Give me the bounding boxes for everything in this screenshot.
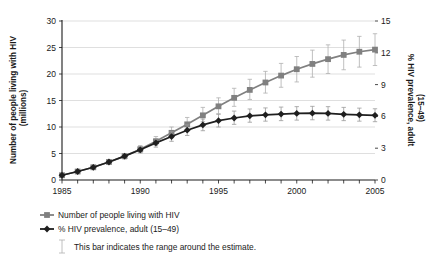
chart-series — [59, 34, 379, 179]
y-tick-label-right: 12 — [381, 48, 391, 58]
y-tick-label-left: 10 — [47, 122, 57, 132]
y-axis-right-title: % HIV prevalence, adult — [406, 54, 415, 147]
y-tick-label-left: 25 — [47, 43, 57, 53]
data-point — [184, 127, 191, 134]
axis-titles: Number of people living with HIV(million… — [9, 36, 425, 164]
data-point — [356, 49, 362, 55]
data-point — [247, 87, 253, 93]
y-tick-label-right: 6 — [381, 111, 386, 121]
y-tick-label-right: 15 — [381, 16, 391, 26]
y-tick-label-right: 3 — [381, 143, 386, 153]
chart-gridlines — [62, 21, 375, 154]
x-tick-label: 2005 — [366, 186, 385, 196]
y-tick-label-right: 0 — [381, 175, 386, 185]
y-tick-label-left: 30 — [47, 16, 57, 26]
y-tick-label-right: 9 — [381, 80, 386, 90]
legend-marker — [44, 226, 51, 233]
x-tick-label: 1985 — [53, 186, 72, 196]
data-point — [231, 95, 237, 101]
y-axis-left-title-units: (millions) — [19, 90, 28, 127]
data-point — [340, 111, 347, 118]
chart-legend: Number of people living with HIV% HIV pr… — [40, 210, 256, 253]
legend-label: % HIV prevalence, adult (15–49) — [58, 224, 179, 234]
data-point — [341, 52, 347, 58]
y-tick-label-left: 5 — [51, 149, 56, 159]
y-tick-label-left: 15 — [47, 96, 57, 106]
x-axis-ticks: 19851990199520002005 — [53, 180, 385, 196]
legend-marker — [44, 212, 50, 218]
data-point — [231, 115, 238, 122]
data-point — [294, 66, 300, 72]
data-point — [293, 110, 300, 117]
y-axis-right-title-units: (15–49) — [416, 94, 425, 122]
data-point — [278, 73, 284, 79]
legend-label: Number of people living with HIV — [58, 210, 180, 220]
data-point — [200, 112, 206, 118]
x-tick-label: 2000 — [287, 186, 306, 196]
x-tick-label: 1990 — [131, 186, 150, 196]
hiv-chart: 051015202530 03691215 198519901995200020… — [0, 0, 433, 268]
data-point — [356, 111, 363, 118]
data-point — [372, 112, 379, 119]
series-markers — [59, 110, 379, 179]
x-tick-label: 1995 — [209, 186, 228, 196]
y-axis-left-ticks: 051015202530 — [47, 16, 62, 185]
data-point — [216, 103, 222, 109]
y-tick-label-left: 20 — [47, 69, 57, 79]
data-point — [246, 112, 253, 119]
data-point — [372, 47, 378, 53]
data-point — [310, 61, 316, 67]
chart-canvas: 051015202530 03691215 198519901995200020… — [0, 0, 433, 268]
data-point — [215, 117, 222, 124]
data-point — [262, 111, 269, 118]
series-error-bars — [60, 106, 377, 175]
data-point — [278, 111, 285, 118]
data-point — [325, 110, 332, 117]
y-tick-label-left: 0 — [51, 175, 56, 185]
y-axis-left-title: Number of people living with HIV — [9, 36, 18, 164]
range-note-label: This bar indicates the range around the … — [74, 242, 256, 252]
y-axis-right-ticks: 03691215 — [375, 16, 391, 185]
data-point — [325, 56, 331, 62]
data-point — [309, 110, 316, 117]
data-point — [263, 80, 269, 86]
